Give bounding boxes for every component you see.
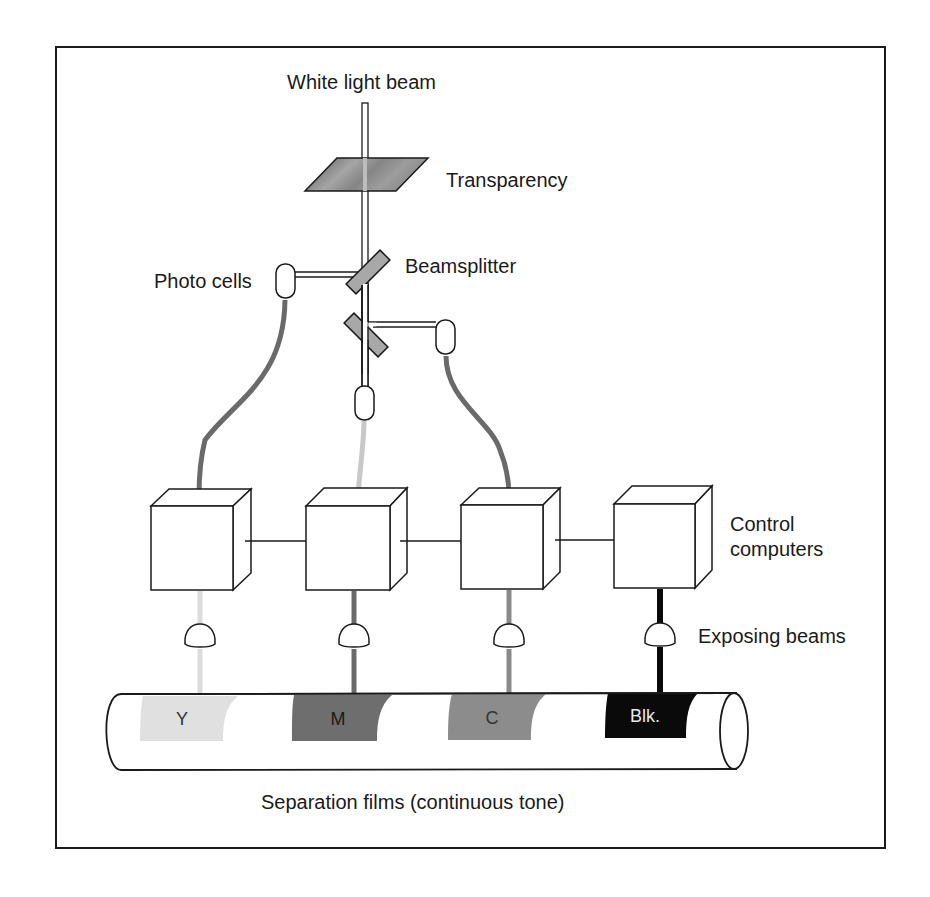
computer-cube-1 (151, 489, 251, 590)
lens-c (494, 624, 524, 647)
label-transparency: Transparency (446, 168, 568, 192)
lens-y (185, 624, 215, 647)
film-cylinder-end (720, 693, 748, 769)
beam-to-left-photocell (295, 272, 362, 277)
label-beamsplitter: Beamsplitter (405, 254, 516, 278)
computer-cube-4 (614, 486, 712, 588)
band-label-blk: Blk. (620, 705, 670, 727)
computer-cube-2 (306, 488, 407, 590)
band-label-m: M (318, 708, 358, 730)
lens-blk (645, 623, 675, 646)
photocell-right (436, 320, 455, 354)
band-label-y: Y (162, 708, 202, 730)
cable-center (358, 421, 364, 494)
diagram-svg (0, 0, 930, 897)
label-control-computers-line1: Control (730, 512, 794, 536)
cable-left (199, 300, 285, 496)
photocell-center (355, 386, 374, 420)
label-exposing-beams: Exposing beams (698, 624, 846, 648)
computer-cube-3 (461, 488, 560, 589)
band-label-c: C (472, 707, 512, 729)
label-separation-films: Separation films (continuous tone) (261, 790, 565, 814)
beam-to-right-photocell (368, 322, 436, 327)
diagram-canvas: White light beam Transparency Beamsplitt… (0, 0, 930, 897)
label-photo-cells: Photo cells (154, 269, 252, 293)
label-white-light-beam: White light beam (287, 70, 436, 94)
lens-m (339, 624, 369, 647)
photocell-left (276, 264, 295, 298)
cable-right (446, 356, 509, 496)
label-control-computers-line2: computers (730, 537, 823, 561)
